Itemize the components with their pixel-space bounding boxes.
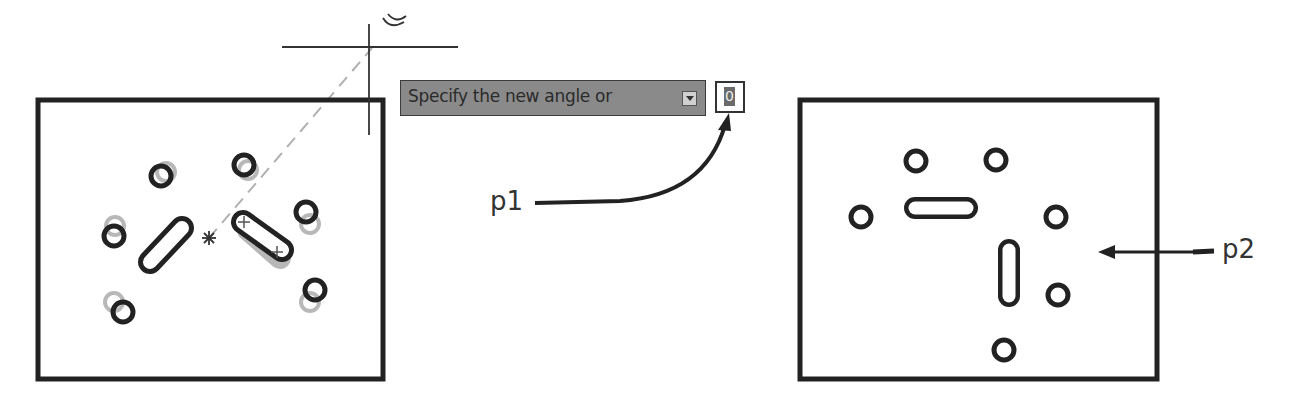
cad-drawing-canvas[interactable]	[0, 0, 1289, 409]
slot	[150, 228, 182, 262]
hole	[1048, 285, 1068, 305]
rubberband-line	[209, 48, 372, 238]
dynamic-input-prompt: Specify the new angle or	[400, 80, 706, 116]
left-part-preview	[38, 48, 383, 379]
hole	[234, 155, 254, 175]
hole	[994, 340, 1014, 360]
hole	[296, 202, 316, 222]
asterisk-icon	[202, 231, 216, 245]
p1-callout-arrow	[535, 113, 731, 203]
angle-value[interactable]: 0	[724, 87, 735, 106]
angle-input-field[interactable]: 0	[715, 81, 745, 113]
hole	[906, 151, 926, 171]
prompt-text: Specify the new angle or	[408, 86, 612, 106]
right-part-result	[800, 100, 1157, 379]
hole	[1046, 207, 1066, 227]
p1-label: p1	[490, 186, 523, 216]
p2-label: p2	[1222, 234, 1255, 264]
crosshair-cursor-icon	[282, 14, 458, 135]
hole	[851, 207, 871, 227]
right-plate-outline	[800, 100, 1157, 379]
dropdown-arrow-icon[interactable]	[682, 91, 697, 106]
hole	[151, 166, 171, 186]
hole	[986, 150, 1006, 170]
slot	[243, 222, 282, 250]
